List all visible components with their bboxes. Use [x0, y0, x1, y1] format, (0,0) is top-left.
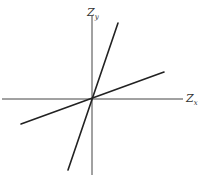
- steep-line: [68, 23, 118, 170]
- vertical-axis-label: Zy: [86, 6, 100, 21]
- horizontal-axis-label: Zx: [185, 92, 198, 107]
- diagram-canvas: Zy Zx: [0, 0, 199, 178]
